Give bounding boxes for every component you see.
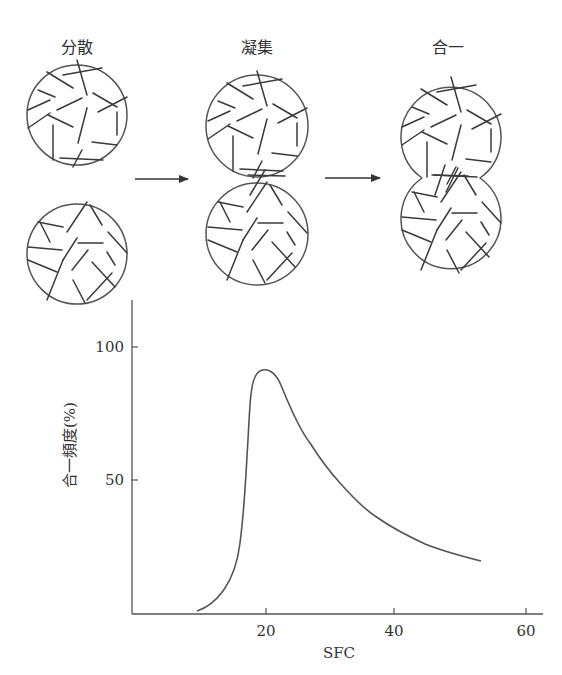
aggregated-droplet-top	[206, 71, 308, 178]
stage-title-dispersed: 分散	[61, 38, 93, 57]
aggregated-droplet-bottom	[206, 182, 308, 285]
sfc-coalescence-figure: 分散 凝集 合一 100	[0, 0, 562, 675]
y-tick-label-100: 100	[95, 338, 124, 356]
coalesced-droplet	[401, 77, 501, 273]
stage-title-coalesced: 合一	[432, 38, 464, 57]
stage-title-aggregated: 凝集	[241, 38, 273, 57]
dispersed-droplet-bottom	[27, 202, 127, 304]
x-tick-label-60: 60	[516, 622, 535, 640]
y-tick-label-50: 50	[105, 471, 124, 489]
y-axis-label: 合一頻度(%)	[61, 402, 79, 488]
coalescence-frequency-chart: 100 50 20 40 60 SFC 合一頻度(%)	[61, 300, 543, 662]
x-tick-label-40: 40	[384, 622, 403, 640]
dispersed-droplet-top	[27, 60, 127, 167]
x-tick-label-20: 20	[256, 622, 275, 640]
x-axis-label: SFC	[323, 644, 355, 662]
coalescence-frequency-curve	[197, 370, 481, 611]
